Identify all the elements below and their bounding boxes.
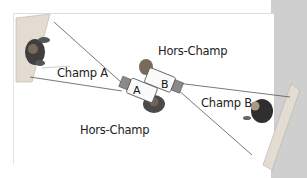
field-b-top-line	[177, 83, 290, 97]
right-wall	[263, 84, 300, 170]
field-a-label: Champ A	[57, 66, 108, 80]
camera-b-label: B	[161, 78, 169, 91]
field-b-label: Champ B	[201, 96, 252, 110]
off-field-top-label: Hors-Champ	[158, 44, 227, 58]
off-field-bottom-label: Hors-Champ	[80, 123, 149, 137]
camera-diagram	[0, 0, 307, 178]
camera-a-label: A	[133, 84, 141, 97]
